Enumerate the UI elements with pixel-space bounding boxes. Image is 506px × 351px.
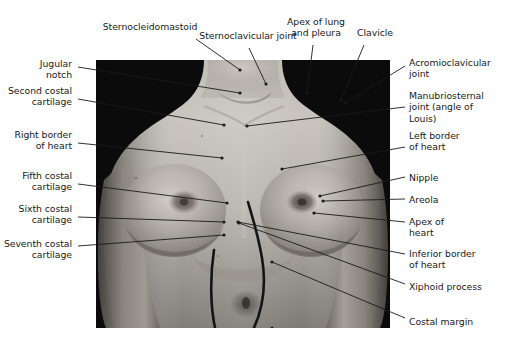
label-acromioclavicular-joint: Acromioclavicular joint xyxy=(409,57,505,80)
label-apex-of-lung-and-pleura: Apex of lung and pleura xyxy=(280,16,352,39)
label-fifth-costal-cartilage: Fifth costal cartilage xyxy=(2,170,72,193)
label-apex-of-heart: Apex of heart xyxy=(409,216,505,239)
label-left-border-of-heart: Left border of heart xyxy=(409,130,505,153)
label-areola: Areola xyxy=(409,194,505,205)
label-nipple: Nipple xyxy=(409,172,505,183)
anterior-thorax-photograph xyxy=(96,60,390,328)
label-xiphoid-process: Xiphoid process xyxy=(409,281,505,292)
label-costal-margin: Costal margin xyxy=(409,316,505,327)
label-jugular-notch: Jugular notch xyxy=(2,58,72,81)
label-right-border-of-heart: Right border of heart xyxy=(2,129,72,152)
label-inferior-border-of-heart: Inferior border of heart xyxy=(409,248,505,271)
label-seventh-costal-cartilage: Seventh costal cartilage xyxy=(2,238,72,261)
label-second-costal-cartilage: Second costal cartilage xyxy=(2,85,72,108)
label-sixth-costal-cartilage: Sixth costal cartilage xyxy=(2,203,72,226)
anatomy-figure: SternocleidomastoidSternoclavicular join… xyxy=(0,0,506,351)
label-manubriosternal-joint: Manubriosternal joint (angle of Louis) xyxy=(409,90,505,124)
label-clavicle: Clavicle xyxy=(350,27,400,38)
